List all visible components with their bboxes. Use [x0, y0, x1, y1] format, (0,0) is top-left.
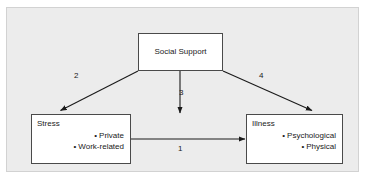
bullet-icon: • — [282, 130, 285, 141]
edge-line-4 — [223, 71, 312, 111]
list-item: •Psychological — [252, 130, 338, 141]
node-social-support-title: Social Support — [154, 47, 206, 57]
edge-line-2 — [61, 71, 139, 111]
list-item-label: Psychological — [287, 131, 336, 140]
diagram-figure: Social Support Stress •Private •Work-rel… — [0, 0, 371, 185]
node-social-support[interactable]: Social Support — [138, 33, 223, 71]
node-stress[interactable]: Stress •Private •Work-related — [31, 114, 131, 164]
edge-label-4: 4 — [259, 71, 263, 80]
node-stress-title: Stress — [37, 119, 126, 129]
edge-label-3: 3 — [179, 88, 183, 97]
list-item: •Work-related — [37, 141, 126, 152]
bullet-icon: • — [74, 141, 77, 152]
bullet-icon: • — [301, 141, 304, 152]
node-illness-title: Illness — [252, 119, 338, 129]
list-item-label: Work-related — [78, 142, 124, 151]
list-item: •Private — [37, 130, 126, 141]
list-item-label: Private — [99, 131, 124, 140]
node-stress-items: •Private •Work-related — [37, 130, 126, 152]
node-illness-items: •Psychological •Physical — [252, 130, 338, 152]
list-item-label: Physical — [306, 142, 336, 151]
edge-label-2: 2 — [74, 71, 78, 80]
list-item: •Physical — [252, 141, 338, 152]
edge-label-1: 1 — [178, 144, 182, 153]
node-illness[interactable]: Illness •Psychological •Physical — [246, 114, 343, 164]
bullet-icon: • — [94, 130, 97, 141]
